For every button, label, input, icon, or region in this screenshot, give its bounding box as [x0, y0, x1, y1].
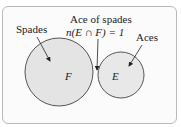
set-e-circle: [98, 52, 144, 98]
spades-label: Spades: [16, 23, 47, 35]
venn-diagram: Spades Ace of spades n(E ∩ F) = 1 Aces F…: [0, 0, 181, 127]
intersection-formula: n(E ∩ F) = 1: [66, 26, 124, 39]
aces-label: Aces: [136, 31, 158, 43]
set-f-symbol: F: [64, 70, 72, 82]
intersection-arrow: [97, 39, 98, 70]
set-f-circle: [25, 38, 93, 106]
ace-of-spades-label: Ace of spades: [70, 13, 132, 25]
set-e-symbol: E: [111, 70, 119, 82]
